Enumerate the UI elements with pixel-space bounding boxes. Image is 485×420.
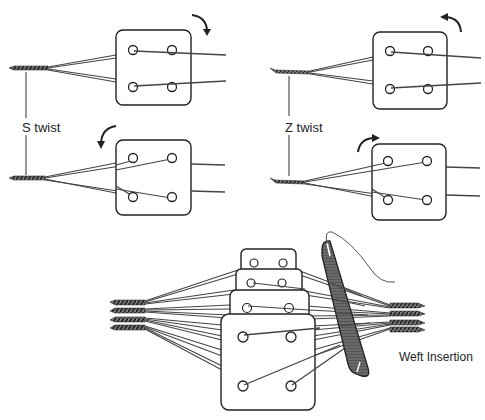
z-twist-bottom-panel [270, 134, 480, 220]
weft-insertion-label: Weft Insertion [399, 351, 473, 363]
warp-threads [310, 57, 373, 84]
tablet-card [116, 30, 191, 105]
twisted-cord [9, 176, 45, 180]
left-woven-cords [110, 300, 145, 330]
clockwise-arrow-icon [192, 15, 211, 36]
s-twist-bottom-panel [9, 126, 225, 215]
shuttle [322, 241, 369, 376]
s-twist-label: S twist [22, 121, 60, 134]
tablet-card [221, 314, 315, 410]
s-twist-top-panel [9, 15, 226, 105]
weft-insertion-panel [110, 232, 425, 410]
right-woven-cords [390, 303, 425, 332]
tablet-card [116, 140, 191, 215]
counterclockwise-arrow-icon [97, 126, 116, 149]
threads-behind-card [191, 164, 225, 192]
z-twist-top-panel [270, 13, 481, 109]
warp-threads [48, 55, 116, 82]
tablet-card [373, 32, 447, 109]
threads-behind-card [446, 167, 480, 196]
tablet-card [372, 144, 446, 220]
twisted-cord [270, 178, 305, 184]
counterclockwise-arrow-icon [440, 13, 461, 32]
twisted-cord [9, 66, 48, 70]
tablet-weaving-diagram: S twist Z twist Weft Insertion [0, 0, 485, 420]
z-twist-label: Z twist [285, 121, 323, 134]
twisted-cord [270, 68, 310, 74]
